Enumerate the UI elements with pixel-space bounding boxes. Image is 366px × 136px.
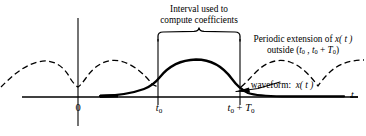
- interval-caption-line1: Interval used to: [170, 4, 228, 14]
- periodic-extension-caption: Periodic extension of x( t ) outside (t0…: [254, 34, 353, 56]
- waveform-leader-arrowhead: [236, 87, 250, 92]
- periodic-caption-line1: Periodic extension of x( t ): [254, 34, 353, 44]
- periodic-caption-plus: +: [318, 45, 328, 55]
- periodic-caption-line2: outside (t0 , t0 + T0): [267, 45, 339, 55]
- origin-label: 0: [75, 102, 80, 114]
- time-axis-label: t: [351, 90, 354, 101]
- waveform-caption-label: waveform:: [251, 80, 291, 90]
- interval-brace: [158, 28, 240, 41]
- tick-label-operator: +: [234, 102, 245, 113]
- tick-label-t0-plus-T0: t0 + T0: [227, 102, 254, 115]
- interval-caption: Interval used to compute coefficients: [160, 4, 238, 26]
- periodic-caption-close-paren: ): [336, 45, 339, 55]
- signal-waveform-figure: Interval used to compute coefficients Pe…: [0, 0, 366, 136]
- waveform-caption: waveform: x( t ): [251, 80, 314, 91]
- interval-caption-line2: compute coefficients: [160, 15, 238, 25]
- tick-label-t0: t0: [156, 102, 162, 115]
- tick-label-T0-subscript: 0: [251, 107, 255, 115]
- periodic-extension-curve-left: [1, 60, 158, 87]
- periodic-caption-text-a: Periodic extension of: [254, 34, 335, 44]
- tick-label-t0-subscript: 0: [159, 107, 163, 115]
- periodic-caption-outside: outside (: [267, 45, 299, 55]
- waveform-caption-t: ( t ): [300, 80, 313, 90]
- periodic-caption-t: ( t ): [339, 34, 352, 44]
